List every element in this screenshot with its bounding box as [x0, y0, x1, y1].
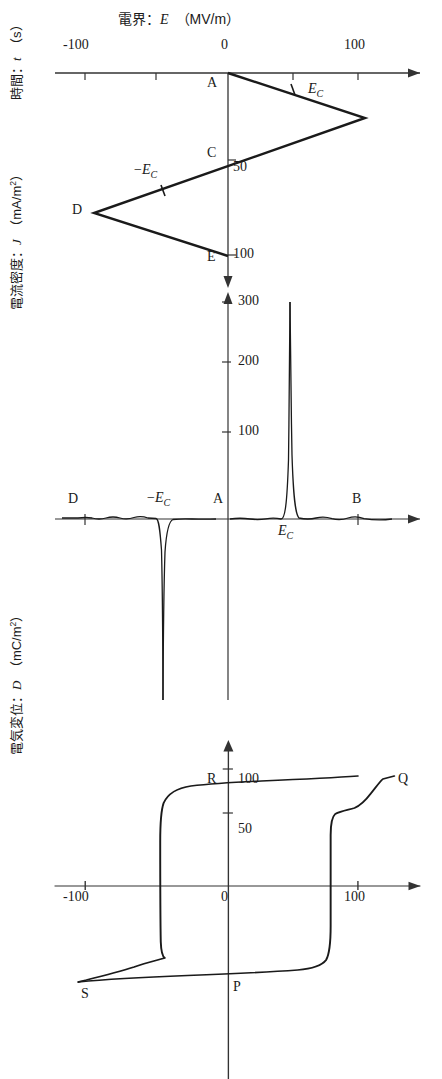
panel-current-density-vs-field: 100 200 300 D A B −EC EC 電流密度：J （mA/m2） [0, 280, 442, 700]
bot-point-label-P: P [233, 980, 241, 994]
bot-hysteresis-loop [78, 776, 394, 982]
mid-plot-svg [0, 280, 442, 700]
mid-yaxis-title-symbol: J [9, 239, 24, 245]
bot-point-label-Q: Q [398, 772, 408, 786]
bot-ytick-label-100: 100 [238, 772, 259, 786]
panel-displacement-vs-field: -100 0 100 100 50 R Q S P 電気変位：D （mC/m2） [0, 690, 442, 1079]
top-point-label-D: D [72, 203, 82, 217]
mid-annotation-ec: EC [278, 524, 293, 541]
top-yaxis-title-unit: （s） [9, 18, 24, 51]
mid-y-ticks [222, 302, 231, 432]
top-point-label-E: E [207, 250, 216, 264]
bot-ytick-label-50: 50 [238, 822, 252, 836]
bot-plot-svg [0, 690, 442, 1079]
bot-yaxis-title-symbol: D [9, 681, 24, 690]
mid-ytick-label-100: 100 [238, 424, 259, 438]
mid-yaxis-title: 電流密度：J （mA/m2） [6, 168, 25, 310]
top-xtick-label-100: 100 [344, 38, 365, 52]
mid-ytick-label-200: 200 [238, 354, 259, 368]
bot-y-axis-arrow [223, 740, 233, 752]
bot-y-axis [223, 740, 233, 1079]
mid-point-label-D: D [68, 492, 78, 506]
top-annotation-ec: EC [308, 82, 323, 99]
top-annotation-ec-subscript: C [317, 88, 324, 99]
bot-point-label-R: R [207, 772, 216, 786]
mid-ytick-label-300: 300 [238, 294, 259, 308]
top-annotation-neg-ec: −EC [134, 163, 157, 180]
bot-xtick-label-100: 100 [344, 890, 365, 904]
bot-point-label-S: S [81, 987, 89, 1001]
top-xaxis-title-unit: （MV/m） [176, 11, 241, 27]
mid-point-label-B: B [352, 492, 361, 506]
bot-yaxis-title: 電気変位：D （mC/m2） [6, 609, 25, 755]
bot-yaxis-title-jp: 電気変位： [9, 690, 24, 755]
mid-x-axis-arrow [408, 515, 420, 524]
bot-x-axis [55, 882, 421, 890]
top-xtick-label-0: 0 [221, 38, 228, 52]
top-xtick-label-neg100: -100 [63, 38, 89, 52]
mid-y-axis [224, 292, 233, 700]
mid-yaxis-title-unit: （mA/m2） [9, 168, 24, 233]
top-x-ticks [85, 73, 358, 80]
top-xaxis-title: 電界：E （MV/m） [118, 12, 240, 27]
top-yaxis-title: 時間：t （s） [6, 18, 25, 100]
bot-xtick-label-neg100: -100 [63, 890, 89, 904]
bot-x-axis-arrow [408, 882, 420, 890]
mid-annotation-neg-ec: −EC [147, 491, 170, 508]
bot-yaxis-title-unit: （mC/m2） [9, 609, 24, 674]
top-ytick-label-100: 100 [233, 247, 254, 261]
mid-yaxis-title-jp: 電流密度： [9, 245, 24, 310]
bot-xtick-label-0: 0 [221, 890, 228, 904]
top-xaxis-title-jp: 電界： [118, 11, 160, 27]
panel-time-vs-field: 電界：E （MV/m） [0, 0, 442, 290]
top-annotation-ec-symbol: E [308, 81, 317, 96]
top-annotation-neg-ec-subscript: C [150, 169, 157, 180]
top-xaxis-title-symbol: E [160, 12, 169, 27]
top-x-axis-arrow [408, 69, 420, 78]
top-ytick-label-50: 50 [233, 160, 247, 174]
top-point-label-C: C [207, 146, 216, 160]
top-y-ticks [228, 160, 236, 255]
top-yaxis-title-jp: 時間： [9, 61, 24, 100]
top-yaxis-title-symbol: t [9, 57, 24, 61]
mid-point-label-A: A [213, 492, 223, 506]
top-point-label-A: A [207, 76, 217, 90]
